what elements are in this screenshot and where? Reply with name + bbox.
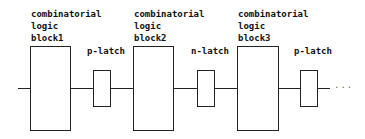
wire-block2-latch2 (174, 88, 197, 89)
wire-latch1-block2 (111, 88, 133, 89)
block1-label: combinatorial logic block1 (31, 8, 101, 44)
block2-label-line2: logic (134, 21, 161, 31)
block2-label-line3: block2 (134, 33, 167, 43)
block1-label-line2: logic (31, 21, 58, 31)
block3-label-line2: logic (238, 21, 265, 31)
latch2-label: n-latch (191, 45, 229, 57)
combinatorial-logic-block2 (133, 46, 174, 131)
wire-latch2-block3 (214, 88, 237, 89)
p-latch-1 (93, 70, 111, 107)
block3-label-line3: block3 (238, 33, 271, 43)
output-wire (318, 88, 330, 89)
block1-label-line1: combinatorial (31, 9, 101, 19)
input-wire (18, 88, 30, 89)
block2-label-line1: combinatorial (134, 9, 204, 19)
latch3-label: p-latch (294, 45, 332, 57)
combinatorial-logic-block3 (237, 46, 279, 131)
wire-block1-latch1 (70, 88, 93, 89)
block3-label: combinatorial logic block3 (238, 8, 308, 44)
continuation-dots: ... (334, 80, 353, 90)
p-latch-3 (300, 70, 318, 107)
block1-label-line3: block1 (31, 33, 64, 43)
n-latch-2 (197, 70, 215, 107)
wire-block3-latch3 (278, 88, 300, 89)
combinatorial-logic-block1 (30, 46, 71, 131)
block2-label: combinatorial logic block2 (134, 8, 204, 44)
block3-label-line1: combinatorial (238, 9, 308, 19)
latch1-label: p-latch (87, 45, 125, 57)
